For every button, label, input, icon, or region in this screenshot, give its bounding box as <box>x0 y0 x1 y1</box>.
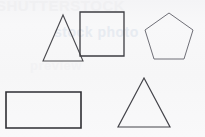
shape-triangle-top-left <box>18 11 72 65</box>
square-outline <box>80 12 124 56</box>
shapes-worksheet-canvas: SHUTTERSTOCK stock photo preview <box>0 0 205 137</box>
pentagon-outline <box>145 13 193 59</box>
rectangle-outline <box>6 92 81 128</box>
shape-layer <box>0 0 205 137</box>
triangle-outline <box>43 15 83 61</box>
triangle-outline <box>118 78 170 127</box>
shape-rectangle-bottom-left <box>5 91 85 132</box>
shape-triangle-bottom-right <box>117 77 173 130</box>
shape-pentagon-top-right <box>144 12 196 62</box>
shape-square-top-middle <box>79 11 126 59</box>
